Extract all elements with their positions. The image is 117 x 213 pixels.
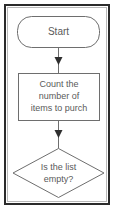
- is-list-empty-label-line-2: empty?: [44, 174, 74, 184]
- is-list-empty-label-line-1: Is the list: [41, 162, 77, 172]
- node-start[interactable]: Start: [18, 17, 100, 48]
- start-label: Start: [48, 26, 69, 37]
- connector-start-to-count-arrowhead: [55, 57, 63, 65]
- is-list-empty-shape: [13, 149, 104, 198]
- count-items-label-line-1: Count the: [39, 79, 78, 89]
- node-is-list-empty[interactable]: Is the list empty?: [13, 149, 104, 198]
- flowchart-canvas: Start Count the number of items to purch…: [0, 0, 117, 213]
- count-items-label-line-3: items to purch: [31, 103, 88, 113]
- count-items-label-line-2: number of: [39, 91, 80, 101]
- node-count-items[interactable]: Count the number of items to purch: [19, 74, 100, 121]
- connector-start-to-count: [55, 48, 63, 74]
- connector-count-to-decision: [55, 121, 63, 149]
- connector-count-to-decision-arrowhead: [55, 130, 63, 138]
- flowchart-svg: Start Count the number of items to purch…: [0, 0, 117, 213]
